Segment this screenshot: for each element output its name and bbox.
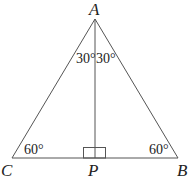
angle-c: 60° [24, 142, 44, 157]
side-ab [95, 19, 178, 158]
label-point-a: A [88, 0, 100, 19]
label-point-c: C [1, 161, 13, 179]
angle-a-right: 30° [96, 51, 116, 66]
angle-a-left: 30° [76, 51, 96, 66]
diagram-canvas: A C P B 30° 30° 60° 60° [0, 0, 191, 179]
angle-b: 60° [149, 142, 169, 157]
label-point-b: B [177, 161, 188, 179]
label-point-p: P [87, 161, 98, 179]
side-ca [12, 19, 95, 158]
triangle-diagram: A C P B 30° 30° 60° 60° [0, 0, 191, 179]
